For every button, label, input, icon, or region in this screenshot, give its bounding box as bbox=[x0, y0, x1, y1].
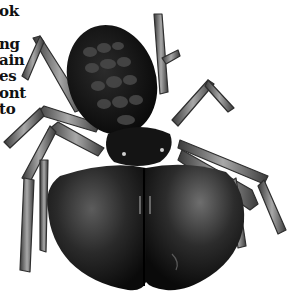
text-fragment: ng bbox=[0, 37, 20, 52]
text-fragment: ont bbox=[0, 86, 26, 101]
leg-mid-right-tarsus bbox=[205, 80, 234, 112]
text-fragment: ok bbox=[0, 4, 19, 19]
leg-lower-right-tarsus bbox=[258, 180, 286, 234]
eye-left bbox=[122, 152, 126, 156]
solifuge-illustration bbox=[0, 0, 295, 304]
pedipalp-left bbox=[20, 178, 34, 272]
leg-lower-left-2 bbox=[22, 126, 56, 182]
chelicerae bbox=[47, 165, 244, 291]
text-fragment: to bbox=[0, 102, 15, 117]
leg-left-distal bbox=[40, 160, 48, 252]
text-fragment: es bbox=[0, 69, 16, 84]
text-fragment: ain bbox=[0, 53, 24, 68]
abdomen bbox=[53, 13, 171, 147]
head bbox=[106, 127, 172, 166]
eye-right bbox=[160, 148, 164, 152]
leg-upper-left-tarsus bbox=[22, 36, 44, 80]
